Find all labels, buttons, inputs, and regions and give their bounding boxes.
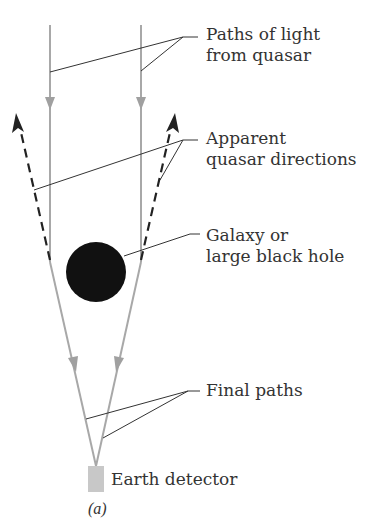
label-line: large black hole xyxy=(206,246,344,267)
figure-caption: (a) xyxy=(88,500,107,518)
down-arrow-icon xyxy=(114,356,124,372)
earth-detector xyxy=(88,466,104,492)
label-apparent-directions: Apparent quasar directions xyxy=(206,128,357,170)
label-final-paths: Final paths xyxy=(206,380,303,401)
label-line: Earth detector xyxy=(111,469,237,490)
label-line: quasar directions xyxy=(206,149,357,170)
down-arrow-icon xyxy=(68,356,78,372)
leader-lines xyxy=(34,37,200,438)
light-paths-from-quasar xyxy=(45,25,146,262)
gravitational-lensing-diagram: Paths of light from quasar Apparent quas… xyxy=(0,0,366,526)
up-arrow-icon xyxy=(166,113,179,133)
label-paths-of-light: Paths of light from quasar xyxy=(206,24,320,66)
apparent-quasar-directions xyxy=(12,113,179,260)
label-line: Paths of light xyxy=(206,24,320,45)
down-arrow-icon xyxy=(45,97,55,110)
label-line: from quasar xyxy=(206,45,320,66)
label-galaxy-black-hole: Galaxy or large black hole xyxy=(206,225,344,267)
down-arrow-icon xyxy=(136,97,146,110)
label-earth-detector: Earth detector xyxy=(111,469,237,490)
up-arrow-icon xyxy=(12,113,24,133)
label-line: Apparent xyxy=(206,128,357,149)
label-line: Final paths xyxy=(206,380,303,401)
label-line: Galaxy or xyxy=(206,225,344,246)
galaxy-black-hole xyxy=(66,242,126,302)
